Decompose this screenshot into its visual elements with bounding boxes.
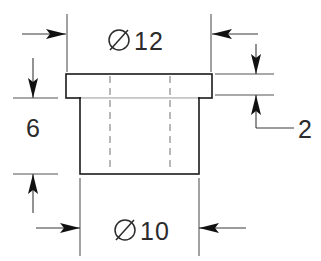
diameter-symbol-icon bbox=[109, 30, 129, 50]
flange-diameter-value: 12 bbox=[134, 27, 164, 55]
hub-length-value: 6 bbox=[26, 114, 41, 142]
diameter-symbol-icon bbox=[115, 220, 135, 240]
hub-outline bbox=[80, 98, 199, 174]
flange-outline bbox=[66, 74, 212, 98]
technical-drawing-canvas: 12 10 6 2 bbox=[0, 0, 321, 261]
flange-thickness-value: 2 bbox=[298, 115, 313, 143]
drawing-svg: 12 10 6 2 bbox=[0, 0, 321, 261]
dimension-label-flange-diameter: 12 bbox=[109, 27, 164, 55]
dimension-label-hub-diameter: 10 bbox=[115, 217, 170, 245]
hub-diameter-value: 10 bbox=[140, 217, 170, 245]
